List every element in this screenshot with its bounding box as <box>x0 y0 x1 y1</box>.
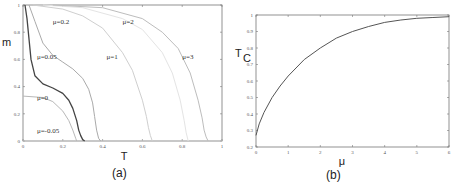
curve-label: μ=0.2 <box>53 18 70 26</box>
caption-b: (b) <box>326 168 341 182</box>
y-tick-label: 0.3 <box>247 128 254 133</box>
y-tick-label: 0.5 <box>247 95 254 100</box>
x-tick-label: 0 <box>255 150 258 155</box>
curve-label: μ=2 <box>123 18 135 26</box>
y-tick-label: 1 <box>18 3 21 8</box>
chart-a-plot: 00.20.40.60.8100.20.40.60.81μ=0.2μ=0.05μ… <box>0 0 230 188</box>
y-tick-label: 0.9 <box>247 29 254 34</box>
curve-label: μ=3 <box>182 53 194 61</box>
x-tick-label: 0.6 <box>139 144 146 149</box>
chart-panel-a: 00.20.40.60.8100.20.40.60.81μ=0.2μ=0.05μ… <box>0 0 230 188</box>
x-tick-label: 1 <box>287 150 290 155</box>
y-axis-title: m <box>2 36 11 48</box>
x-tick-label: 0.8 <box>179 144 186 149</box>
curve-label: μ=0.05 <box>37 53 57 61</box>
series-line <box>256 17 449 136</box>
x-axis-title: T <box>121 150 128 162</box>
curve-label: μ=-0.05 <box>37 127 60 135</box>
y-tick-label: 0.4 <box>247 112 254 117</box>
x-tick-label: 3 <box>351 150 354 155</box>
curve-label: μ=1 <box>107 53 119 61</box>
curve-label: μ=0 <box>37 94 49 102</box>
x-tick-label: 2 <box>319 150 322 155</box>
y-tick-label: 1 <box>251 13 254 18</box>
plot-frame <box>256 15 449 147</box>
y-tick-label: 0.8 <box>14 30 21 35</box>
y-tick-label: 0.8 <box>247 46 254 51</box>
y-tick-label: 0.6 <box>247 79 254 84</box>
chart-panel-b: 01234560.20.30.40.50.60.70.80.91μTC (b) <box>230 0 454 188</box>
y-tick-label: 0.2 <box>14 112 21 117</box>
x-tick-label: 0.2 <box>60 144 67 149</box>
y-tick-label: 0.6 <box>14 57 21 62</box>
caption-a: (a) <box>112 166 127 180</box>
x-tick-label: 5 <box>416 150 419 155</box>
y-tick-label: 0.4 <box>14 84 21 89</box>
x-tick-label: 0.4 <box>99 144 106 149</box>
x-tick-label: 1 <box>221 144 224 149</box>
chart-b-plot: 01234560.20.30.40.50.60.70.80.91μTC <box>230 0 454 188</box>
y-axis-title: T <box>235 47 242 59</box>
y-tick-label: 0 <box>18 139 21 144</box>
y-tick-label: 0.2 <box>247 145 254 150</box>
x-tick-label: 6 <box>448 150 451 155</box>
y-axis-title-subscript: C <box>243 52 251 64</box>
x-tick-label: 0 <box>22 144 25 149</box>
x-tick-label: 4 <box>383 150 386 155</box>
x-axis-title: μ <box>339 155 345 167</box>
